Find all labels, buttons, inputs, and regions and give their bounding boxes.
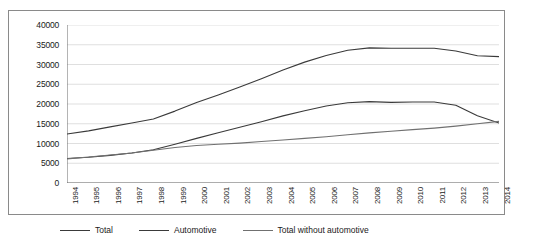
x-axis-tick-label: 2014 <box>503 187 512 204</box>
y-axis-tick-label: 15000 <box>36 119 59 129</box>
x-axis-tick-label: 2011 <box>438 187 447 203</box>
x-axis-tick-label: 1995 <box>92 187 101 204</box>
x-axis-tick-label: 2010 <box>416 187 425 204</box>
y-axis-tick-label: 5000 <box>41 158 59 168</box>
y-axis-tick-label: 30000 <box>36 60 59 70</box>
y-axis-tick-label: 35000 <box>36 40 59 50</box>
x-axis-tick-label: 2004 <box>287 187 296 204</box>
legend-item-total: Total <box>60 225 113 235</box>
x-axis-tick-label: 2013 <box>481 187 490 204</box>
legend-item-automotive: Automotive <box>139 225 217 235</box>
legend-line-icon <box>139 230 169 231</box>
y-axis-tick-label: 40000 <box>36 20 59 30</box>
x-axis-tick-label: 2000 <box>200 187 209 204</box>
legend-line-icon <box>243 230 273 231</box>
legend-label: Automotive <box>174 225 217 235</box>
x-axis-tick-label: 2007 <box>351 187 360 204</box>
x-axis-tick-label: 2003 <box>265 187 274 204</box>
x-axis-tick-label: 2009 <box>395 187 404 204</box>
series-lines <box>67 25 499 183</box>
legend-item-total-without-automotive: Total without automotive <box>243 225 369 235</box>
x-axis-tick-label: 2012 <box>459 187 468 204</box>
x-axis-tick-label: 1997 <box>135 187 144 204</box>
x-axis-tick-label: 1999 <box>179 187 188 204</box>
x-axis-tick-label: 1994 <box>71 187 80 204</box>
x-axis-tick-label: 2005 <box>308 187 317 204</box>
y-axis-tick-label: 10000 <box>36 139 59 149</box>
y-axis-tick-label: 0 <box>54 178 59 188</box>
y-axis-tick-label: 20000 <box>36 99 59 109</box>
plot-area <box>67 25 499 183</box>
legend-line-icon <box>60 230 90 231</box>
x-axis-tick-label: 2001 <box>222 187 231 204</box>
chart-legend: Total Automotive Total without automotiv… <box>60 222 480 238</box>
x-axis-tick-label: 1998 <box>157 187 166 204</box>
x-axis: 1994199519961997199819992000200120022003… <box>67 187 499 219</box>
x-axis-tick-label: 1996 <box>114 187 123 204</box>
x-axis-tick-label: 2002 <box>243 187 252 204</box>
plot-wrapper: 0500010000150002000025000300003500040000… <box>9 11 506 216</box>
legend-label: Total without automotive <box>278 225 369 235</box>
y-axis: 0500010000150002000025000300003500040000 <box>9 11 59 216</box>
legend-label: Total <box>95 225 113 235</box>
chart-container: 0500010000150002000025000300003500040000… <box>8 10 505 215</box>
x-axis-tick-label: 2006 <box>330 187 339 204</box>
x-axis-tick-label: 2008 <box>373 187 382 204</box>
y-axis-tick-label: 25000 <box>36 79 59 89</box>
